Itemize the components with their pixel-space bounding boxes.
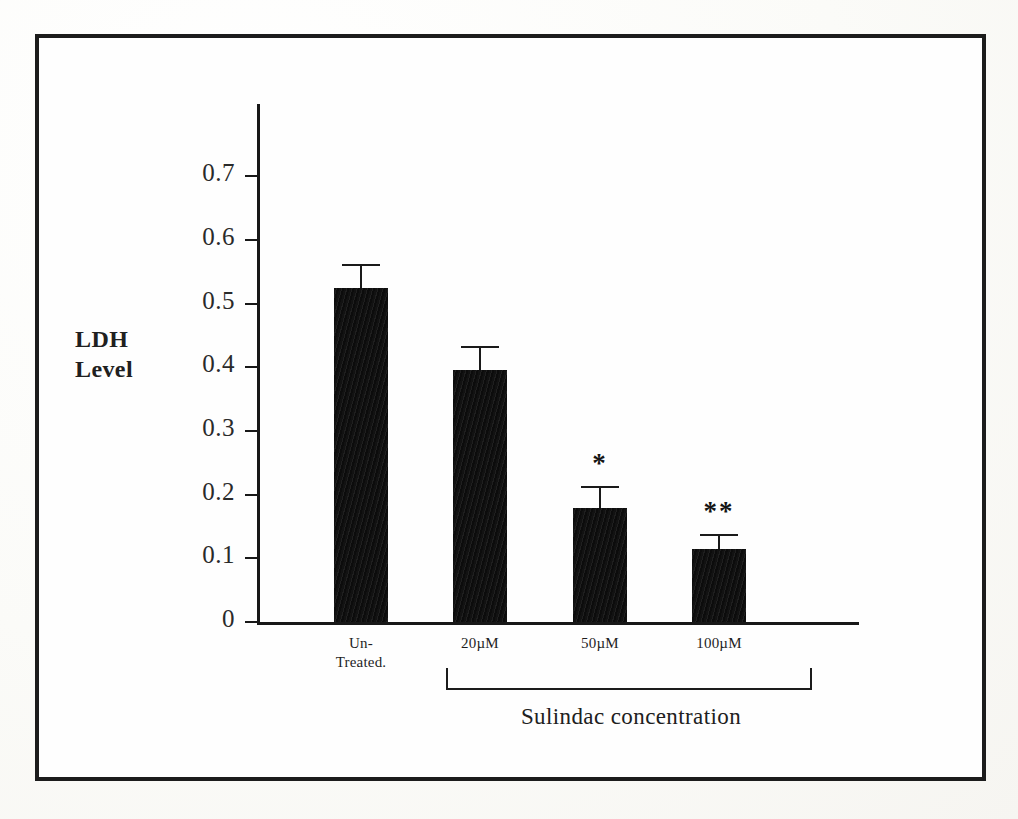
group-bracket-left-arm <box>446 668 448 690</box>
y-axis-tick-label: 0.5 <box>165 287 235 315</box>
x-axis-category-label: 20µM <box>420 634 540 653</box>
x-axis-category-label: 50µM <box>540 634 660 653</box>
y-axis-tick-label: 0.4 <box>165 350 235 378</box>
x-axis-category-label-line-1: 100µM <box>659 634 779 653</box>
y-axis-tick <box>245 303 258 305</box>
y-axis-line <box>257 104 260 624</box>
bar <box>573 508 627 622</box>
error-bar-stem <box>479 346 481 370</box>
y-axis-tick-label: 0 <box>165 605 235 633</box>
group-bracket-right-arm <box>810 668 812 690</box>
y-axis-tick <box>245 557 258 559</box>
x-axis-category-label-line-1: 20µM <box>420 634 540 653</box>
y-axis-tick-label: 0.6 <box>165 223 235 251</box>
y-axis-tick <box>245 494 258 496</box>
x-axis-line <box>257 622 859 625</box>
error-bar-cap <box>581 486 619 488</box>
significance-marker: * <box>555 450 645 477</box>
x-axis-category-label-line-2: Treated. <box>301 653 421 672</box>
plot-area: LDH Level 0.70.60.50.40.30.20.10 Un-Trea… <box>39 38 990 785</box>
y-axis-tick-label: 0.3 <box>165 414 235 442</box>
scanned-page-background: LDH Level 0.70.60.50.40.30.20.10 Un-Trea… <box>0 0 1018 819</box>
y-axis-tick <box>245 239 258 241</box>
group-bracket <box>446 668 812 690</box>
error-bar-cap <box>342 264 380 266</box>
bar <box>692 549 746 622</box>
group-bracket-base <box>446 688 812 690</box>
y-axis-tick-label: 0.7 <box>165 159 235 187</box>
x-axis-group-label: Sulindac concentration <box>386 704 876 730</box>
x-axis-category-label: Un-Treated. <box>301 634 421 672</box>
x-axis-category-label-line-1: Un- <box>301 634 421 653</box>
error-bar-stem <box>718 534 720 549</box>
error-bar-cap <box>461 346 499 348</box>
x-axis-category-label: 100µM <box>659 634 779 653</box>
error-bar-cap <box>700 534 738 536</box>
error-bar-stem <box>360 264 362 288</box>
y-axis-tick-label: 0.1 <box>165 541 235 569</box>
y-axis-tick <box>245 175 258 177</box>
bar <box>453 370 507 622</box>
bar <box>334 288 388 622</box>
y-axis-tick-label: 0.2 <box>165 478 235 506</box>
significance-marker: ** <box>674 498 764 525</box>
y-axis-tick <box>245 366 258 368</box>
figure-frame: LDH Level 0.70.60.50.40.30.20.10 Un-Trea… <box>35 34 986 781</box>
y-axis-tick <box>245 430 258 432</box>
y-axis-tick <box>245 621 258 623</box>
x-axis-category-label-line-1: 50µM <box>540 634 660 653</box>
error-bar-stem <box>599 486 601 508</box>
